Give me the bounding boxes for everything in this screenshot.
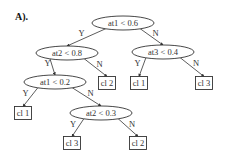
edge-label: Y	[78, 28, 84, 38]
node-label: at3 < 0.4	[148, 47, 179, 57]
leaf-node: cl 3	[64, 137, 81, 150]
edge-label: N	[193, 58, 199, 68]
edge-label: Y	[70, 119, 76, 129]
node-label: cl 2	[101, 78, 114, 88]
edge-label: N	[129, 119, 135, 129]
node-label: cl 2	[132, 138, 145, 148]
edge-n: N	[180, 58, 204, 77]
decision-tree-diagram: YNYNYNYNYN at1 < 0.6at2 < 0.8at3 < 0.4at…	[0, 0, 226, 167]
node-label: at1 < 0.6	[108, 18, 138, 28]
leaf-node: cl 2	[99, 77, 116, 90]
edge-label: Y	[134, 58, 140, 68]
edge-y: Y	[70, 119, 84, 137]
node-label: cl 3	[198, 78, 211, 88]
node-label: cl 1	[17, 108, 30, 118]
edge-label: Y	[22, 88, 28, 98]
leaf-node: cl 1	[15, 107, 32, 120]
edge-y: Y	[67, 28, 106, 46]
edge-y: Y	[22, 88, 38, 107]
leaf-node: cl 3	[196, 77, 213, 90]
edge-y: Y	[134, 58, 146, 77]
edge-y: Y	[44, 58, 55, 75]
decision-node: at2 < 0.8	[36, 46, 98, 60]
node-label: cl 1	[133, 78, 146, 88]
leaf-node: cl 2	[130, 137, 147, 150]
edge-label: N	[96, 59, 102, 69]
edge-n: N	[118, 119, 138, 137]
node-label: at2 < 0.3	[86, 108, 116, 118]
decision-node: at1 < 0.6	[92, 16, 154, 30]
node-label: at1 < 0.2	[40, 77, 70, 87]
decision-node: at1 < 0.2	[24, 75, 86, 89]
node-label: cl 3	[66, 138, 79, 148]
leaf-node: cl 1	[131, 77, 148, 90]
edge-label: N	[152, 28, 158, 38]
edge-n: N	[140, 28, 163, 45]
edge-label: N	[87, 88, 93, 98]
edge-n: N	[72, 88, 101, 106]
node-label: at2 < 0.8	[52, 48, 82, 58]
nodes-layer: at1 < 0.6at2 < 0.8at3 < 0.4at1 < 0.2cl 2…	[15, 16, 213, 150]
edge-n: N	[84, 59, 107, 77]
decision-node: at2 < 0.3	[70, 106, 132, 120]
decision-node: at3 < 0.4	[132, 45, 194, 59]
edge-label: Y	[44, 58, 50, 68]
